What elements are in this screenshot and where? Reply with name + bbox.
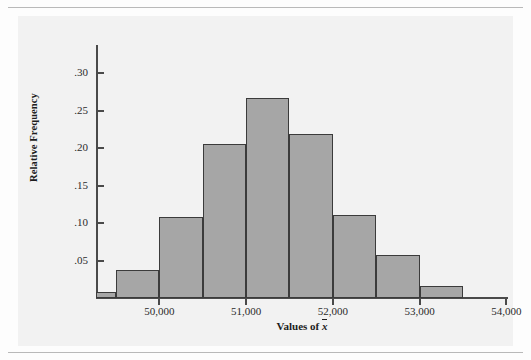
y-axis-tick bbox=[98, 222, 104, 224]
histogram-bar bbox=[420, 286, 463, 298]
y-axis-tick bbox=[98, 72, 104, 74]
histogram-bar bbox=[289, 134, 332, 298]
histogram-bar bbox=[96, 292, 116, 298]
y-axis-tick-label: .20 bbox=[62, 142, 88, 153]
x-bar-symbol: x bbox=[322, 320, 328, 332]
histogram-bar bbox=[159, 217, 202, 298]
y-axis-tick bbox=[98, 260, 104, 262]
y-axis-tick-label: .25 bbox=[62, 105, 88, 116]
x-axis-title-text: Values of bbox=[277, 320, 322, 332]
x-axis-tick-label: 50,000 bbox=[129, 305, 189, 317]
histogram-bar bbox=[333, 215, 376, 298]
x-bar-overline bbox=[322, 319, 328, 320]
x-axis-tick-label: 52,000 bbox=[303, 305, 363, 317]
figure-canvas: .05.10.15.20.25.30 50,00051,00052,00053,… bbox=[0, 0, 531, 360]
histogram-bar bbox=[116, 270, 159, 298]
y-axis-tick-label: .15 bbox=[62, 180, 88, 191]
y-axis-tick-label: .10 bbox=[62, 217, 88, 228]
x-axis-tick-label: 51,000 bbox=[216, 305, 276, 317]
y-axis-tick bbox=[98, 147, 104, 149]
x-axis-tick-label: 54,000 bbox=[476, 305, 531, 317]
histogram-plot: .05.10.15.20.25.30 50,00051,00052,00053,… bbox=[0, 0, 531, 360]
x-axis-tick-label: 53,000 bbox=[390, 305, 450, 317]
histogram-bar bbox=[246, 98, 289, 298]
y-axis-tick bbox=[98, 185, 104, 187]
histogram-bar bbox=[376, 255, 419, 298]
y-axis-tick bbox=[98, 110, 104, 112]
y-axis-tick-label: .05 bbox=[62, 255, 88, 266]
y-axis-title: Relative Frequency bbox=[28, 58, 39, 218]
y-axis-tick-label: .30 bbox=[62, 67, 88, 78]
histogram-bar bbox=[203, 144, 246, 298]
x-axis-title: Values of x bbox=[96, 320, 508, 332]
